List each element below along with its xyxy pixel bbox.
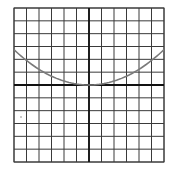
- stray-mark: [20, 116, 22, 118]
- graph-paper-plot: [0, 0, 170, 172]
